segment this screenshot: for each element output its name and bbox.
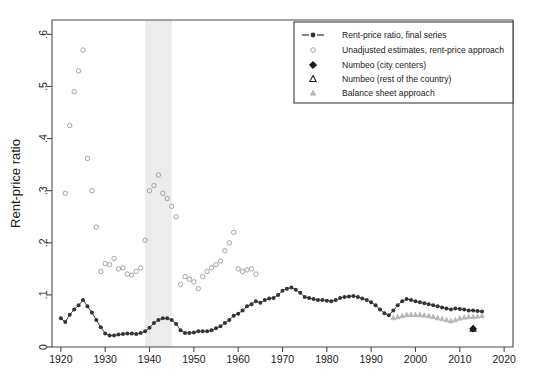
- unadjusted-point: [125, 272, 129, 276]
- x-tick-label: 2000: [404, 353, 428, 365]
- final-series-point: [94, 318, 98, 322]
- final-series-point: [303, 295, 307, 299]
- balance-sheet-point: [462, 315, 467, 320]
- final-series-point: [85, 304, 89, 308]
- final-series-point: [227, 318, 231, 322]
- unadjusted-point: [63, 191, 67, 195]
- balance-sheet-point: [475, 314, 480, 319]
- unadjusted-point: [72, 89, 76, 93]
- x-tick-label: 1960: [226, 353, 250, 365]
- unadjusted-point: [236, 267, 240, 271]
- final-series-point: [174, 322, 178, 326]
- final-series-point: [369, 300, 373, 304]
- unadjusted-point: [178, 282, 182, 286]
- balance-sheet-point: [409, 312, 414, 317]
- unadjusted-point: [107, 262, 111, 266]
- final-series-point: [232, 314, 236, 318]
- final-series-point: [351, 294, 355, 298]
- final-series-point: [99, 325, 103, 329]
- final-series-point: [130, 331, 134, 335]
- final-series-point: [245, 304, 249, 308]
- final-series-point: [156, 318, 160, 322]
- y-axis-title: Rent-price ratio: [8, 139, 23, 228]
- final-series-point: [329, 299, 333, 303]
- balance-sheet-point: [444, 317, 449, 322]
- unadjusted-point: [232, 230, 236, 234]
- final-series-point: [148, 326, 152, 330]
- final-series-point: [281, 289, 285, 293]
- final-series-point: [125, 331, 129, 335]
- x-tick-label: 2010: [448, 353, 472, 365]
- final-series-point: [223, 321, 227, 325]
- unadjusted-point: [196, 286, 200, 290]
- final-series-point: [121, 332, 125, 336]
- recession-shading: [145, 20, 172, 347]
- final-series-point: [458, 307, 462, 311]
- unadjusted-point: [240, 269, 244, 273]
- final-series-line: [61, 288, 482, 336]
- legend-label: Unadjusted estimates, rent-price approac…: [342, 45, 504, 55]
- final-series-point: [440, 305, 444, 309]
- final-series-point: [241, 309, 245, 313]
- final-series-point: [312, 297, 316, 301]
- final-series-point: [462, 307, 466, 311]
- final-series-point: [334, 298, 338, 302]
- final-series-point: [378, 307, 382, 311]
- final-series-point: [445, 306, 449, 310]
- final-series-point: [165, 316, 169, 320]
- final-series-point: [382, 311, 386, 315]
- final-series-point: [405, 297, 409, 301]
- final-series-point: [289, 286, 293, 290]
- y-tick-label: .5: [37, 82, 49, 91]
- final-series-point: [81, 298, 85, 302]
- unadjusted-point: [94, 225, 98, 229]
- final-series-point: [205, 329, 209, 333]
- final-series-point: [103, 331, 107, 335]
- final-series-point: [267, 297, 271, 301]
- unadjusted-point: [249, 267, 253, 271]
- unadjusted-point: [227, 241, 231, 245]
- unadjusted-point: [205, 269, 209, 273]
- final-series-point: [161, 316, 165, 320]
- final-series-point: [249, 302, 253, 306]
- unadjusted-point: [99, 269, 103, 273]
- balance-sheet-point: [422, 313, 427, 318]
- final-series-point: [427, 302, 431, 306]
- final-series-point: [449, 307, 453, 311]
- final-series-point: [374, 303, 378, 307]
- final-series-point: [179, 328, 183, 332]
- unadjusted-point: [192, 280, 196, 284]
- final-series-point: [134, 332, 138, 336]
- balance-sheet-point: [431, 314, 436, 319]
- unadjusted-point: [134, 269, 138, 273]
- final-series-point: [320, 298, 324, 302]
- final-series-point: [143, 329, 147, 333]
- final-series-point: [422, 301, 426, 305]
- final-series-point: [112, 334, 116, 338]
- unadjusted-point: [68, 123, 72, 127]
- unadjusted-point: [254, 272, 258, 276]
- final-series-point: [272, 296, 276, 300]
- unadjusted-point: [218, 259, 222, 263]
- final-series-point: [285, 287, 289, 291]
- series-balance-sheet-approach: [391, 312, 484, 323]
- y-tick-label: .3: [37, 186, 49, 195]
- chart-legend: Rent-price ratio, final seriesUnadjusted…: [294, 22, 513, 103]
- final-series-point: [436, 304, 440, 308]
- final-series-point: [453, 306, 457, 310]
- y-tick-label: .2: [37, 238, 49, 247]
- x-tick-label: 1990: [359, 353, 383, 365]
- final-series-point: [254, 299, 258, 303]
- final-series-point: [418, 300, 422, 304]
- final-series-point: [72, 307, 76, 311]
- final-series-point: [90, 311, 94, 315]
- final-series-point: [214, 326, 218, 330]
- final-series-point: [170, 318, 174, 322]
- balance-sheet-point: [449, 318, 454, 323]
- final-series-point: [183, 331, 187, 335]
- balance-sheet-point: [395, 314, 400, 319]
- unadjusted-point: [103, 261, 107, 265]
- balance-sheet-point: [404, 312, 409, 317]
- unadjusted-point: [81, 48, 85, 52]
- final-series-point: [431, 303, 435, 307]
